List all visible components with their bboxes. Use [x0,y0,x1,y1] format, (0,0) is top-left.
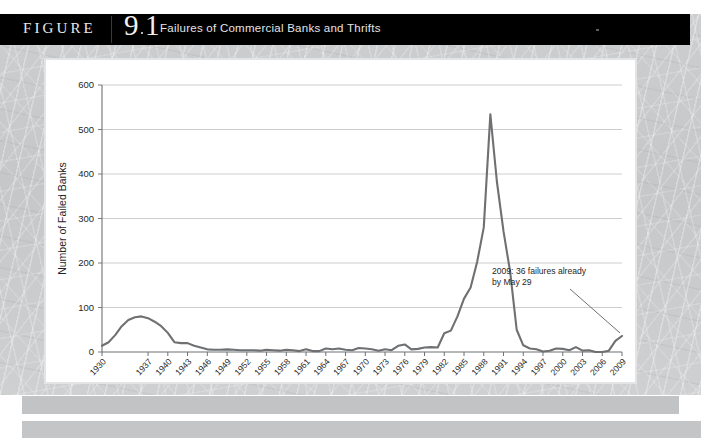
x-axis-tick-label: 2009 [608,356,629,377]
x-axis-tick-label: 1958 [272,356,293,377]
top-margin [0,0,701,14]
x-axis-tick-label: 1985 [450,356,471,377]
x-axis-tick-label: 1955 [252,356,273,377]
footer-gap [0,414,701,421]
x-axis-tick-label: 1946 [193,356,214,377]
figure-number-dot-icon [141,32,143,34]
y-axis-tick-label: 100 [78,302,94,313]
figure-word-label: FIGURE [23,21,96,36]
x-axis-tick-label: 1979 [410,356,431,377]
x-axis-tick-label: 2000 [548,356,569,377]
x-axis-tick-label: 1949 [213,356,234,377]
x-axis-tick-label: 1964 [311,356,332,377]
y-axis-tick-label: 500 [78,124,94,135]
x-axis-tick-label: 1930 [88,356,109,377]
figure-number: 9 [124,11,139,40]
x-axis-tick-label: 1976 [390,356,411,377]
x-axis-tick-label: 2003 [568,356,589,377]
x-axis-tick-label: 1937 [134,356,155,377]
x-axis-tick-label: 1973 [371,356,392,377]
footer-bar-lower [22,421,701,438]
x-axis-tick-label: 1988 [469,356,490,377]
x-axis-tick-label: 1970 [351,356,372,377]
figure-title: Failures of Commercial Banks and Thrifts [160,22,381,34]
bank-failures-line-chart: 0100200300400500600193019371940194319461… [46,60,635,382]
y-axis-tick-label: 200 [78,257,94,268]
annotation-line-2: by May 29 [492,277,532,287]
y-axis-tick-label: 300 [78,213,94,224]
x-axis-tick-label: 1952 [232,356,253,377]
x-axis-tick-label: 1991 [489,356,510,377]
x-axis-tick-label: 1982 [430,356,451,377]
x-axis-tick-label: 2006 [588,356,609,377]
footer-bar-upper [22,396,679,414]
y-axis-tick-label: 0 [89,346,94,357]
x-axis-tick-label: 1961 [292,356,313,377]
x-axis-tick-label: 1967 [331,356,352,377]
y-axis-tick-label: 600 [78,79,94,90]
speck-icon [596,29,599,31]
x-axis-tick-label: 1997 [529,356,550,377]
figure-root: FIGURE 9 1 Failures of Commercial Banks … [0,0,701,438]
y-axis-title: Number of Failed Banks [56,162,68,275]
x-axis-tick-label: 1994 [509,356,530,377]
x-axis-tick-label: 1940 [153,356,174,377]
chart-panel: 0100200300400500600193019371940194319461… [46,60,635,382]
header-divider [111,16,112,43]
x-axis-tick-label: 1943 [173,356,194,377]
annotation-line-1: 2009: 36 failures already [492,266,587,276]
y-axis-tick-label: 400 [78,168,94,179]
figure-subnumber: 1 [145,11,160,40]
